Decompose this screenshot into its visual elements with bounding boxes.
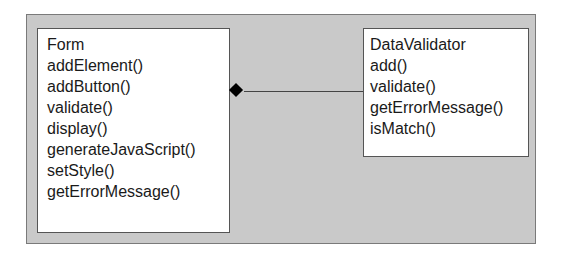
method: validate() [370,76,528,97]
method: isMatch() [370,118,528,139]
method: add() [370,55,528,76]
method: generateJavaScript() [47,139,229,160]
association-line [244,91,363,92]
class-name: Form [47,34,229,55]
method: setStyle() [47,160,229,181]
class-box-form: Form addElement() addButton() validate()… [37,28,230,233]
class-box-datavalidator: DataValidator add() validate() getErrorM… [363,28,529,157]
method: display() [47,118,229,139]
method: addButton() [47,76,229,97]
method: getErrorMessage() [370,97,528,118]
method: addElement() [47,55,229,76]
method: validate() [47,97,229,118]
class-name: DataValidator [370,34,528,55]
method: getErrorMessage() [47,181,229,202]
